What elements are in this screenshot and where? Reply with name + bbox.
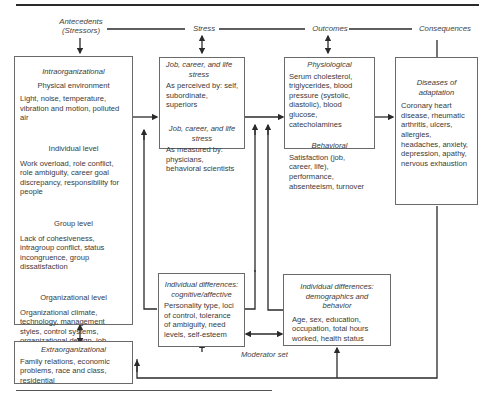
individual-level-text: Work overload, role conflict, role ambig… xyxy=(20,159,127,197)
diseases-of-adaptation-text: Coronary heart disease, rheumatic arthri… xyxy=(401,101,472,168)
perceived-stress-title: Job, career, and life stress xyxy=(164,60,240,79)
stress-box: Job, career, and life stress As perceive… xyxy=(159,57,245,149)
cognitive-affective-title: Individual differences: cognitive/affect… xyxy=(164,280,239,299)
organizational-level-label: Organizational level xyxy=(20,293,127,303)
behavioral-text: Satisfaction (job, career, life), perfor… xyxy=(289,153,370,191)
individual-level-label: Individual level xyxy=(20,144,127,154)
demographics-behavior-text: Age, sex, education, occupation, total h… xyxy=(292,315,382,344)
cognitive-affective-box: Individual differences: cognitive/affect… xyxy=(158,273,245,347)
moderator-set-label: Moderator set xyxy=(241,350,288,359)
intraorganizational-box: Intraorganizational Physical environment… xyxy=(14,56,133,325)
outcomes-box: Physiological Serum cholesterol, triglyc… xyxy=(284,57,375,149)
perceived-stress-text: As perceived by: self, subordinate, supe… xyxy=(164,81,240,110)
physical-environment-label: Physical environment xyxy=(20,81,127,91)
extraorganizational-title: Extraorganizational xyxy=(20,345,127,355)
measured-stress-text: As measured by: physicians, behavioral s… xyxy=(164,145,240,174)
measured-stress-title: Job, career, and life stress xyxy=(164,124,240,143)
group-level-label: Group level xyxy=(20,219,127,229)
physiological-text: Serum cholesterol, triglycerides, blood … xyxy=(289,72,370,130)
demographics-behavior-title: Individual differences: demographics and… xyxy=(292,282,382,311)
diseases-of-adaptation-title: Diseases of adaptation xyxy=(401,78,472,97)
consequences-box: Diseases of adaptation Coronary heart di… xyxy=(395,57,478,205)
extraorganizational-box: Extraorganizational Family relations, ec… xyxy=(14,341,133,384)
demographics-behavior-box: Individual differences: demographics and… xyxy=(283,274,391,346)
behavioral-title: Behavioral xyxy=(289,141,370,151)
physiological-title: Physiological xyxy=(289,60,370,70)
extraorganizational-text: Family relations, economic problems, rac… xyxy=(20,357,127,386)
intraorganizational-title: Intraorganizational xyxy=(20,67,127,77)
group-level-text: Lack of cohesiveness, intragroup conflic… xyxy=(20,234,127,272)
physical-environment-text: Light, noise, temperature, vibration and… xyxy=(20,94,127,123)
cognitive-affective-text: Personality type, loci of control, toler… xyxy=(164,301,239,339)
